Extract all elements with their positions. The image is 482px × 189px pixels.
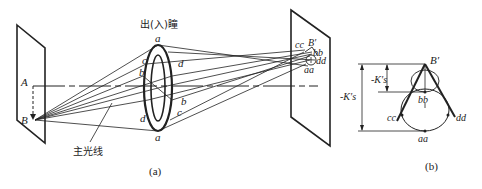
label-b-aa: aa <box>418 133 428 144</box>
panel-a <box>17 10 330 146</box>
caption-a: (a) <box>149 165 162 178</box>
label-b-dd: dd <box>456 112 467 123</box>
dim-long-label: -K′s <box>340 91 356 102</box>
panel-b-labels: B′ bb cc dd aa -K′s -K′s (b) <box>340 54 467 173</box>
label-b-bb: bb <box>418 94 428 105</box>
label-A: A <box>20 76 28 88</box>
label-cc: cc <box>295 39 304 50</box>
dim-short-label: -K′s <box>371 74 387 85</box>
label-b-left: b <box>139 66 145 78</box>
label-c-right: c <box>177 106 182 118</box>
chief-ray-leader <box>90 103 112 142</box>
label-b-cc: cc <box>387 112 396 123</box>
label-dd: dd <box>316 55 327 66</box>
panel-a-labels: 出(入)瞳 A B a a c b d d b c cc B′ bb dd aa… <box>20 18 327 178</box>
label-d-left: d <box>140 112 146 124</box>
pupil-label: 出(入)瞳 <box>140 18 178 30</box>
label-b-B-prime: B′ <box>430 54 440 66</box>
cone-right <box>425 64 455 117</box>
coma-diagram: 出(入)瞳 A B a a c b d d b c cc B′ bb dd aa… <box>0 0 482 189</box>
label-d-right: d <box>178 57 184 69</box>
label-b-right: b <box>181 95 187 107</box>
caption-b: (b) <box>425 160 438 173</box>
image-plane <box>291 10 330 146</box>
label-B: B <box>21 114 28 126</box>
rays <box>35 45 315 131</box>
label-aa: aa <box>304 64 314 75</box>
chief-ray-label: 主光线 <box>73 145 103 157</box>
arrow-head <box>30 114 36 120</box>
label-a-top: a <box>155 32 161 44</box>
label-c-left: c <box>142 54 147 66</box>
label-a-bottom: a <box>155 131 161 143</box>
